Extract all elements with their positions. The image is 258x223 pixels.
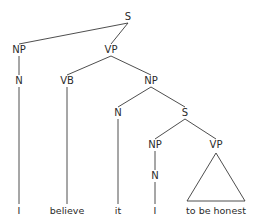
tree-edges [19,23,245,204]
node-label-n: N [151,170,158,181]
tree-edge-s2-np3 [155,119,185,139]
leaf-word: I [154,205,157,216]
node-label-np: NP [148,139,162,150]
node-label-vp: VP [210,139,223,150]
constituent-triangle [187,153,245,201]
tree-labels: SNPVPNVBNPNSNPVPNIbelieveitIto be honest [12,11,246,216]
node-label-s: S [182,107,188,118]
tree-edge-s_root-np1 [19,23,128,44]
leaf-word: it [115,205,122,216]
leaf-word: to be honest [186,205,246,216]
tree-edge-vp1-vb [67,56,111,75]
node-label-vp: VP [105,44,118,55]
node-label-s: S [125,11,131,22]
tree-edge-vp1-np2 [111,56,151,75]
node-label-n: N [114,107,121,118]
node-label-np: NP [12,44,26,55]
syntax-tree-diagram: SNPVPNVBNPNSNPVPNIbelieveitIto be honest [0,0,258,223]
leaf-word: believe [50,205,85,216]
tree-edge-np2-s2 [151,87,185,107]
tree-edge-np2-n2 [118,87,151,107]
tree-edge-s2-vp2 [185,119,216,139]
node-label-np: NP [144,75,158,86]
node-label-vb: VB [60,75,74,86]
node-label-n: N [15,75,22,86]
leaf-word: I [18,205,21,216]
